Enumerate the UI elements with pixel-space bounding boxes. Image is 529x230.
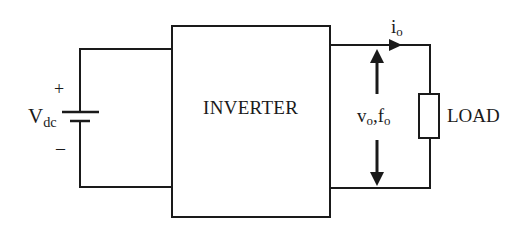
wire-output-bottom [330, 138, 430, 188]
wire-source-bottom [80, 121, 172, 187]
current-arrow-icon [389, 39, 402, 51]
output-current-label: io [391, 17, 403, 39]
wire-output-top [330, 45, 430, 94]
source-label-main: V [28, 104, 43, 128]
inverter-block [172, 26, 330, 217]
frequency-subscript: o [384, 113, 390, 128]
current-subscript: o [396, 24, 402, 39]
output-voltage-frequency-label: vo,fo [357, 106, 390, 128]
voltage-symbol: v [357, 105, 367, 126]
voltage-arrow-up-icon [370, 49, 384, 63]
source-label-sub: dc [43, 114, 56, 130]
voltage-arrow-down-icon [370, 172, 384, 186]
wire-source-top [80, 49, 172, 112]
inverter-label: INVERTER [203, 98, 298, 117]
source-label: Vdc [28, 106, 57, 129]
load-resistor [419, 94, 439, 138]
source-minus-sign: – [56, 139, 65, 157]
load-label: LOAD [447, 106, 500, 125]
source-plus-sign: + [54, 80, 64, 98]
